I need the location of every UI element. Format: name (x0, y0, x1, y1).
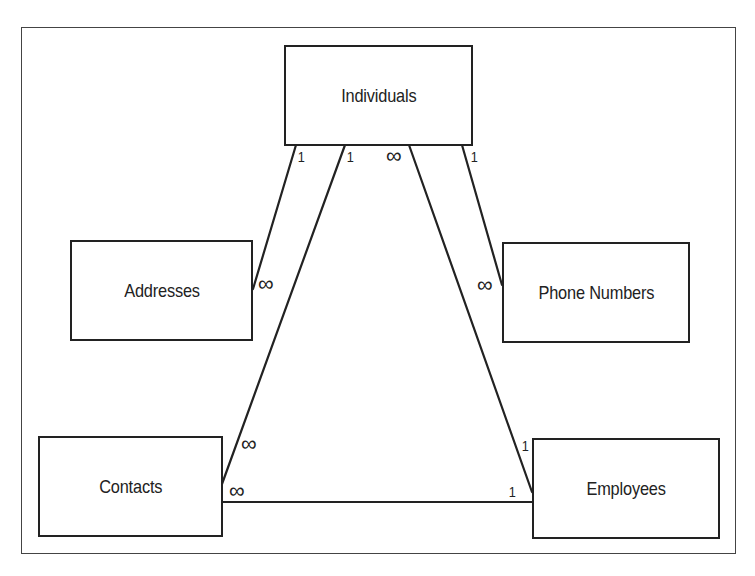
entity-contacts[interactable]: Contacts (38, 436, 223, 537)
link-individuals-phone-numbers (462, 145, 502, 285)
cardinality-many: ∞ (386, 145, 402, 167)
entity-employees[interactable]: Employees (532, 438, 720, 539)
link-individuals-addresses (253, 145, 296, 289)
cardinality-many: ∞ (258, 273, 274, 295)
cardinality-one: 1 (522, 438, 529, 453)
entity-label: Addresses (124, 280, 200, 302)
cardinality-many: ∞ (241, 433, 257, 455)
entity-individuals[interactable]: Individuals (284, 45, 473, 146)
cardinality-one: 1 (471, 149, 478, 164)
entity-addresses[interactable]: Addresses (70, 240, 253, 341)
cardinality-one: 1 (347, 149, 354, 164)
entity-phone-numbers[interactable]: Phone Numbers (502, 242, 690, 343)
cardinality-one: 1 (298, 149, 305, 164)
cardinality-one: 1 (509, 484, 516, 499)
entity-label: Contacts (99, 476, 162, 498)
entity-label: Phone Numbers (538, 282, 654, 304)
entity-label: Individuals (341, 85, 416, 107)
cardinality-many: ∞ (229, 480, 245, 502)
cardinality-many: ∞ (477, 274, 493, 296)
entity-label: Employees (586, 478, 665, 500)
